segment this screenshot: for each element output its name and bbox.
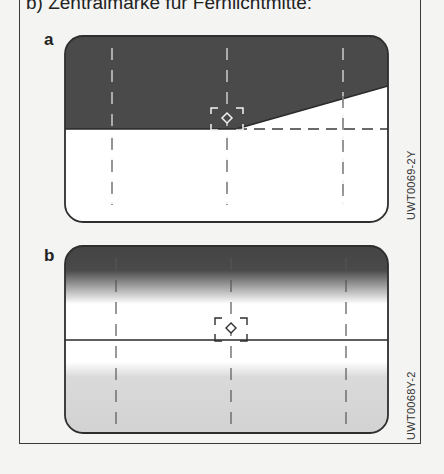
panel-a-screen — [65, 36, 388, 222]
diagram-canvas — [0, 0, 444, 474]
panel-b-screen — [65, 246, 388, 433]
